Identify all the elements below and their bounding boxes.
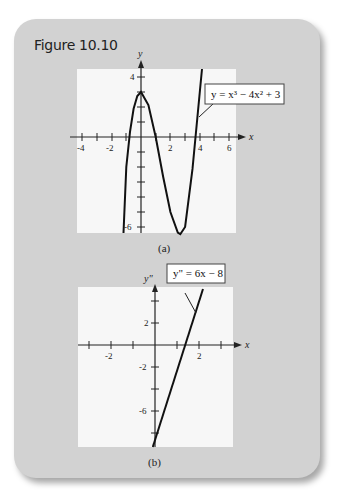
x-tick-label: 2 xyxy=(168,143,173,153)
x-tick-label: 2 xyxy=(197,351,202,361)
y-tick-label: -2 xyxy=(139,362,147,372)
chart-a: x y -4 -2 2 4 6 4 -6 y = xyxy=(70,48,284,255)
chart-b: x y" -2 2 2 -2 -6 y" = 6x − 8 (b) xyxy=(78,264,250,469)
x-tick-label: 4 xyxy=(198,143,203,153)
x-axis-label-b: x xyxy=(244,339,250,350)
y-tick-label: -6 xyxy=(139,406,147,416)
x-tick-label: -2 xyxy=(106,143,114,153)
panel-label-a: (a) xyxy=(158,242,171,255)
y-tick-label: 4 xyxy=(130,72,135,82)
y-tick-label: -6 xyxy=(124,222,132,232)
x-axis-arrow-icon xyxy=(234,342,242,348)
x-tick-label: -2 xyxy=(105,351,113,361)
x-tick-label: -4 xyxy=(77,143,85,153)
y-axis-label-a: y xyxy=(137,48,143,59)
figure-plots: x y -4 -2 2 4 6 4 -6 y = xyxy=(0,0,342,492)
x-tick-label: 6 xyxy=(227,143,232,153)
y-tick-label: 2 xyxy=(144,318,149,328)
x-axis-label-a: x xyxy=(248,131,254,142)
equation-label-a: y = x³ − 4x² + 3 xyxy=(211,88,281,100)
equation-label-b: y" = 6x − 8 xyxy=(173,267,223,279)
panel-label-b: (b) xyxy=(148,456,161,469)
y-axis-label-b: y" xyxy=(143,273,153,284)
x-axis-arrow-icon xyxy=(238,134,246,140)
y-axis-arrow-icon xyxy=(138,60,144,68)
